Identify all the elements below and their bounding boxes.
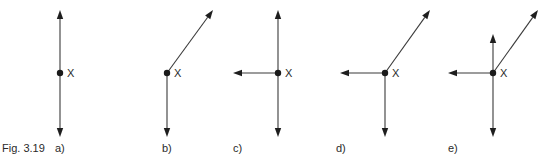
point-x-label: X	[174, 67, 182, 79]
arrowhead-down-icon	[275, 128, 281, 137]
panel-e: Xe)	[448, 10, 538, 154]
panel-label: c)	[233, 142, 242, 154]
panel-label: b)	[162, 142, 172, 154]
vector-up-right-line	[385, 17, 425, 73]
panels-group: Xa)Xb)Xc)Xd)Xe)	[55, 10, 538, 154]
figure-caption: Fig. 3.19	[2, 142, 45, 154]
point-x-dot-icon	[382, 70, 388, 76]
arrowhead-left-icon	[340, 70, 349, 76]
arrowhead-up-icon	[275, 10, 281, 19]
arrowhead-down-icon	[164, 128, 170, 137]
panel-b: Xb)	[162, 10, 213, 154]
arrowhead-up-right-icon	[530, 10, 538, 19]
arrowhead-up-icon	[490, 34, 496, 43]
panel-a: Xa)	[55, 10, 75, 154]
vector-up-right-line	[493, 17, 533, 73]
arrowhead-up-right-icon	[422, 10, 430, 19]
point-x-label: X	[285, 67, 293, 79]
point-x-dot-icon	[275, 70, 281, 76]
arrowhead-up-right-icon	[205, 10, 213, 19]
arrowhead-down-icon	[490, 128, 496, 137]
panel-label: a)	[55, 142, 65, 154]
figure-3-19: Fig. 3.19 Xa)Xb)Xc)Xd)Xe)	[0, 0, 560, 162]
point-x-label: X	[67, 67, 75, 79]
arrowhead-left-icon	[448, 70, 457, 76]
arrowhead-down-icon	[382, 128, 388, 137]
arrowhead-left-icon	[233, 70, 242, 76]
point-x-dot-icon	[490, 70, 496, 76]
point-x-dot-icon	[57, 70, 63, 76]
vector-up-right-line	[167, 17, 208, 73]
arrowhead-down-icon	[57, 128, 63, 137]
panel-label: d)	[336, 142, 346, 154]
point-x-label: X	[392, 67, 400, 79]
vector-diagram-canvas: Fig. 3.19 Xa)Xb)Xc)Xd)Xe)	[0, 0, 560, 162]
panel-label: e)	[448, 142, 458, 154]
panel-c: Xc)	[233, 10, 293, 154]
panel-d: Xd)	[336, 10, 430, 154]
point-x-label: X	[500, 67, 508, 79]
arrowhead-up-icon	[57, 10, 63, 19]
point-x-dot-icon	[164, 70, 170, 76]
